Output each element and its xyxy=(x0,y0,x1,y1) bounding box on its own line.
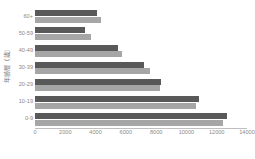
x-tick-label: 4000 xyxy=(89,130,101,136)
x-axis-tick-labels: 02000400060008000100001200014000 xyxy=(35,130,247,144)
x-tick-label: 14000 xyxy=(239,130,255,136)
bar-group xyxy=(35,77,247,94)
y-tick-label: 10-19 xyxy=(19,99,33,105)
bar-30-39-series-2 xyxy=(35,68,150,74)
y-axis-tick-labels: 60+50-5940-4930-3920-2910-190-9 xyxy=(10,8,33,128)
bar-group xyxy=(35,8,247,25)
bar-chart: 年齢層（歳） 60+50-5940-4930-3920-2910-190-9 0… xyxy=(0,0,255,159)
x-tick-label: 12000 xyxy=(209,130,225,136)
y-tick-label: 60+ xyxy=(24,14,34,20)
bar-10-19-series-2 xyxy=(35,103,196,109)
x-tick-label: 10000 xyxy=(179,130,195,136)
bar-group xyxy=(35,111,247,128)
bar-50-59-series-1 xyxy=(35,27,85,33)
bar-30-39-series-1 xyxy=(35,62,144,68)
bar-20-29-series-2 xyxy=(35,85,160,91)
x-tick-label: 2000 xyxy=(59,130,71,136)
bar-20-29-series-1 xyxy=(35,79,161,85)
bar-60plus-series-1 xyxy=(35,10,97,16)
y-tick-label: 20-29 xyxy=(19,82,33,88)
bar-group xyxy=(35,25,247,42)
bar-50-59-series-2 xyxy=(35,34,91,40)
y-tick-label: 50-59 xyxy=(19,31,33,37)
bar-40-49-series-2 xyxy=(35,51,122,57)
bar-group xyxy=(35,94,247,111)
bar-0-9-series-1 xyxy=(35,113,227,119)
bar-group xyxy=(35,42,247,59)
bar-10-19-series-1 xyxy=(35,96,199,102)
y-tick-label: 30-39 xyxy=(19,65,33,71)
plot-area xyxy=(35,8,247,128)
bar-40-49-series-1 xyxy=(35,45,118,51)
x-tick-label: 8000 xyxy=(150,130,162,136)
x-tick-label: 0 xyxy=(33,130,36,136)
y-tick-label: 40-49 xyxy=(19,48,33,54)
x-tick-label: 6000 xyxy=(120,130,132,136)
bar-group xyxy=(35,59,247,76)
bar-60plus-series-2 xyxy=(35,17,101,23)
y-tick-label: 0-9 xyxy=(25,116,33,122)
bar-0-9-series-2 xyxy=(35,120,223,126)
